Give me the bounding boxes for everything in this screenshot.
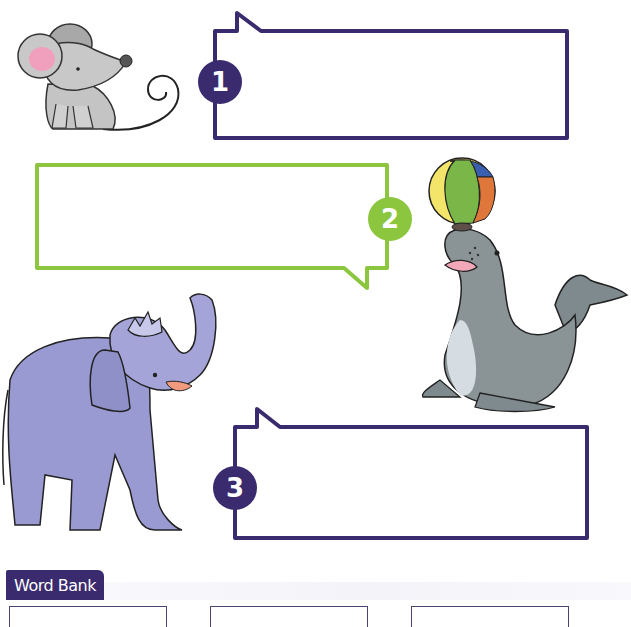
seal-illustration: [415, 155, 631, 415]
elephant-illustration: [0, 290, 225, 540]
answer-field-1[interactable]: [250, 45, 550, 125]
bubble-number: 3: [226, 473, 244, 503]
answer-field-3[interactable]: [270, 445, 570, 525]
word-bank-strip: [104, 582, 631, 600]
word-bank-title: Word Bank: [6, 570, 104, 600]
number-badge-1: 1: [198, 60, 242, 104]
word-bank-box-2[interactable]: [210, 606, 368, 627]
word-bank-box-1[interactable]: [9, 606, 167, 627]
bubble-number: 1: [211, 67, 229, 97]
number-badge-3: 3: [213, 466, 257, 510]
word-bank-box-3[interactable]: [411, 606, 569, 627]
answer-field-2[interactable]: [50, 178, 350, 258]
bubble-number: 2: [381, 204, 399, 234]
beach-ball-icon: [429, 158, 495, 224]
number-badge-2: 2: [368, 197, 412, 241]
mouse-illustration: [8, 14, 188, 139]
